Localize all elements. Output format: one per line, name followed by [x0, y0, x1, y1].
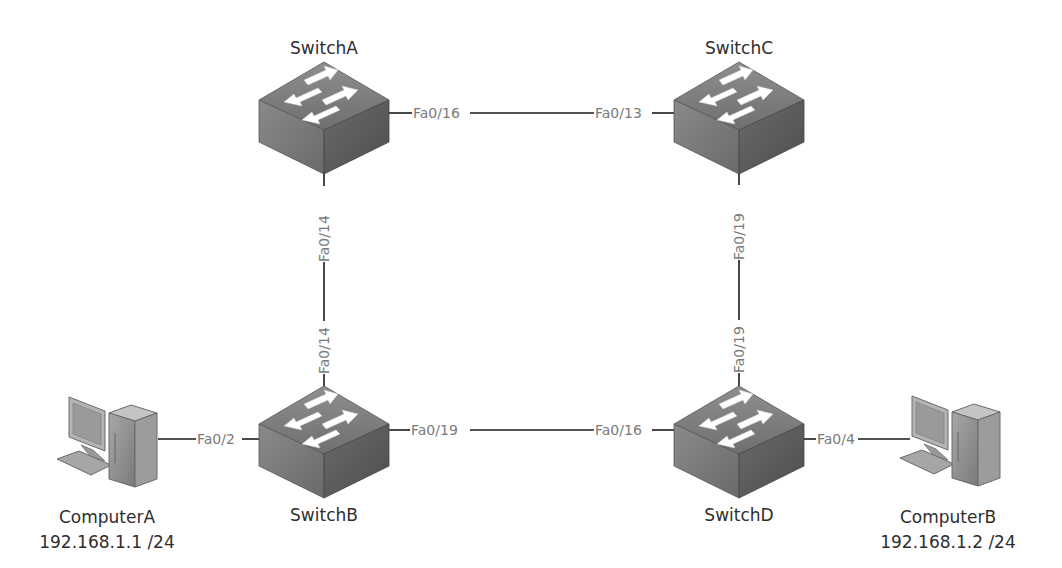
computer-a: ComputerA 192.168.1.1 /24	[39, 397, 175, 552]
port-label-switchD-fa0-4: Fa0/4	[817, 431, 855, 447]
computer-b-ip: 192.168.1.2 /24	[880, 532, 1016, 552]
port-label-switchC-fa0-13: Fa0/13	[595, 105, 642, 121]
switch-icon	[674, 386, 804, 498]
switch-c-label: SwitchC	[705, 38, 773, 58]
port-label-switchB-fa0-2: Fa0/2	[197, 431, 235, 447]
port-label-switchA-fa0-14: Fa0/14	[316, 215, 332, 262]
computer-icon	[900, 396, 1000, 486]
port-label-switchB-fa0-14: Fa0/14	[316, 327, 332, 374]
switch-icon	[259, 386, 389, 498]
port-label-switchD-fa0-19: Fa0/19	[731, 326, 747, 373]
port-label-switchB-fa0-19: Fa0/19	[411, 422, 458, 438]
switch-b-label: SwitchB	[290, 505, 358, 525]
port-label-switchC-fa0-19: Fa0/19	[731, 213, 747, 260]
switch-a-label: SwitchA	[290, 38, 358, 58]
links	[158, 113, 910, 439]
computer-icon	[57, 397, 157, 487]
switch-b: SwitchB	[259, 386, 389, 525]
switch-icon	[259, 62, 389, 174]
switch-a: SwitchA	[259, 38, 389, 174]
port-label-switchD-fa0-16: Fa0/16	[595, 422, 642, 438]
switch-c: SwitchC	[674, 38, 804, 174]
computer-b-label: ComputerB	[900, 507, 996, 527]
switch-icon	[674, 62, 804, 174]
computer-b: ComputerB 192.168.1.2 /24	[880, 396, 1016, 552]
computer-a-label: ComputerA	[59, 507, 156, 527]
port-label-switchA-fa0-16: Fa0/16	[413, 105, 460, 121]
network-diagram: Fa0/16 Fa0/13 Fa0/14 Fa0/14 Fa0/19 Fa0/1…	[0, 0, 1062, 568]
computer-a-ip: 192.168.1.1 /24	[39, 532, 175, 552]
switch-d: SwitchD	[674, 386, 804, 525]
switch-d-label: SwitchD	[704, 505, 773, 525]
